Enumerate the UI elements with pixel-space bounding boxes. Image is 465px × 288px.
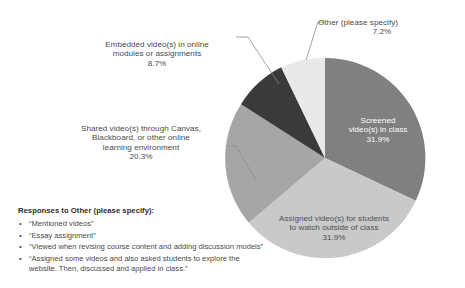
bullet-icon: •: [19, 231, 22, 241]
list-item: • “Assigned some videos and also asked s…: [18, 254, 264, 274]
responses-to-other-block: Responses to Other (please specify): • “…: [18, 206, 264, 276]
bullet-icon: •: [19, 254, 22, 264]
list-item-text: “Assigned some videos and also asked stu…: [29, 254, 240, 273]
list-item-text: “Essay assignment”: [29, 231, 96, 240]
list-item: • “Mentioned videos”: [18, 219, 264, 229]
bullet-icon: •: [19, 242, 22, 252]
slice-label-screened-text: Screened video(s) in class: [349, 116, 408, 135]
slice-label-assigned-percent: 31.9%: [252, 233, 416, 243]
slice-label-shared: Shared video(s) through Canvas, Blackboa…: [30, 114, 252, 172]
slice-label-shared-text: Shared video(s) through Canvas, Blackboa…: [81, 124, 201, 152]
slice-label-shared-percent: 20.3%: [30, 152, 252, 162]
slice-label-screened: Screened video(s) in class 31.9%: [330, 106, 426, 154]
list-item-text: “Mentioned videos”: [29, 219, 94, 228]
responses-list: • “Mentioned videos” • “Essay assignment…: [18, 219, 264, 275]
pie-chart-figure: Other (please specify) 7.2% Embedded vid…: [0, 0, 465, 288]
slice-label-embedded-text: Embedded video(s) in online modules or a…: [105, 40, 209, 59]
list-item: • “Viewed when revising course content a…: [18, 242, 264, 252]
slice-label-embedded-percent: 8.7%: [62, 59, 252, 69]
slice-label-screened-percent: 31.9%: [330, 135, 426, 145]
slice-label-other-percent: 7.2%: [318, 27, 446, 37]
slice-label-other-text: Other (please specify): [318, 18, 398, 27]
responses-title: Responses to Other (please specify):: [18, 206, 264, 215]
slice-label-assigned-text: Assigned video(s) for students to watch …: [279, 214, 389, 233]
bullet-icon: •: [19, 219, 22, 229]
slice-label-assigned: Assigned video(s) for students to watch …: [252, 204, 416, 252]
list-item-text: “Viewed when revising course content and…: [29, 242, 263, 251]
slice-label-other: Other (please specify) 7.2%: [318, 8, 464, 46]
list-item: • “Essay assignment”: [18, 231, 264, 241]
slice-label-embedded: Embedded video(s) in online modules or a…: [62, 30, 252, 78]
